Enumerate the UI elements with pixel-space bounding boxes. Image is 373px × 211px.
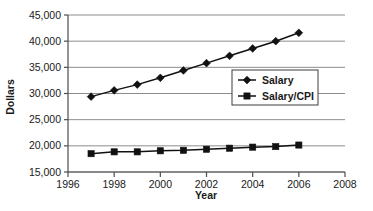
data-point-marker [157,148,163,154]
y-tick-label: 30,000 [29,87,61,99]
data-point-marker [226,145,232,151]
data-point-marker [111,149,117,155]
data-point-marker [244,93,250,99]
y-axis-title: Dollars [4,79,16,115]
data-point-marker [296,142,302,148]
y-tick-label: 45,000 [29,9,61,21]
x-tick-label: 2004 [241,178,265,190]
legend-label: Salary [262,74,294,86]
chart-legend: SalarySalary/CPI [232,70,318,105]
data-point-marker [273,144,279,150]
salary-line-chart: 15,00020,00025,00030,00035,00040,00045,0… [0,0,373,211]
x-axis-title: Year [195,189,217,201]
x-tick-label: 2008 [333,178,357,190]
chart-canvas: 15,00020,00025,00030,00035,00040,00045,0… [0,0,373,211]
data-point-marker [203,146,209,152]
x-tick-label: 1996 [56,178,80,190]
legend-label: Salary/CPI [262,90,314,102]
y-tick-label: 25,000 [29,113,61,125]
x-tick-label: 1998 [102,178,126,190]
data-point-marker [88,151,94,157]
y-tick-label: 35,000 [29,61,61,73]
y-tick-label: 20,000 [29,139,61,151]
data-point-marker [250,144,256,150]
x-tick-label: 2006 [287,178,311,190]
data-point-marker [180,147,186,153]
y-tick-label: 40,000 [29,35,61,47]
y-tick-label: 15,000 [29,166,61,178]
data-point-marker [134,149,140,155]
x-tick-label: 2000 [149,178,173,190]
